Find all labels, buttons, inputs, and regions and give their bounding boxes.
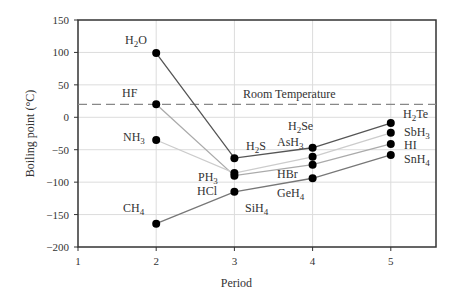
point-label: SiH4	[245, 201, 269, 217]
y-tick-label: 100	[53, 46, 70, 58]
point-label: HBr	[277, 167, 298, 181]
y-tick-label: 50	[58, 79, 70, 91]
data-point	[387, 140, 395, 148]
data-point	[387, 119, 395, 127]
data-point	[387, 151, 395, 159]
x-tick-label: 4	[310, 255, 316, 267]
data-point	[309, 144, 317, 152]
series-line	[156, 53, 391, 158]
y-tick-label: −150	[46, 209, 69, 221]
point-label: HI	[404, 138, 417, 152]
data-point	[230, 169, 238, 177]
y-tick-label: 0	[64, 111, 70, 123]
data-point	[152, 100, 160, 108]
point-label: PH3	[198, 170, 218, 186]
point-label: HF	[122, 86, 138, 100]
data-point	[230, 188, 238, 196]
data-point	[152, 136, 160, 144]
point-label: GeH4	[277, 186, 305, 202]
x-tick-label: 3	[232, 255, 238, 267]
x-tick-label: 5	[388, 255, 394, 267]
x-tick-label: 2	[153, 255, 159, 267]
room-temperature-label: Room Temperature	[243, 87, 336, 101]
point-label: HCl	[197, 184, 218, 198]
data-point	[309, 174, 317, 182]
point-label: AsH3	[277, 135, 304, 151]
boiling-point-chart: 150100500−50−100−150−20012345PeriodBoili…	[0, 0, 457, 302]
y-tick-label: −200	[46, 241, 69, 253]
point-label: H2O	[125, 33, 147, 49]
x-tick-label: 1	[75, 255, 81, 267]
x-axis-label: Period	[221, 276, 252, 290]
point-label: SnH4	[404, 152, 430, 168]
y-tick-label: 150	[53, 14, 70, 26]
point-label: H2Te	[403, 107, 428, 123]
point-label: SbH3	[404, 125, 430, 141]
data-point	[152, 49, 160, 57]
y-tick-label: −100	[46, 176, 69, 188]
data-point	[152, 220, 160, 228]
point-label: H2S	[246, 139, 266, 155]
point-label: NH3	[123, 130, 145, 146]
data-point	[387, 129, 395, 137]
data-point	[309, 153, 317, 161]
y-tick-label: −50	[52, 144, 70, 156]
point-label: CH4	[123, 201, 145, 217]
data-point	[309, 161, 317, 169]
point-label: H2Se	[288, 119, 313, 135]
data-point	[230, 154, 238, 162]
y-axis-label: Boiling point (°C)	[23, 90, 37, 177]
